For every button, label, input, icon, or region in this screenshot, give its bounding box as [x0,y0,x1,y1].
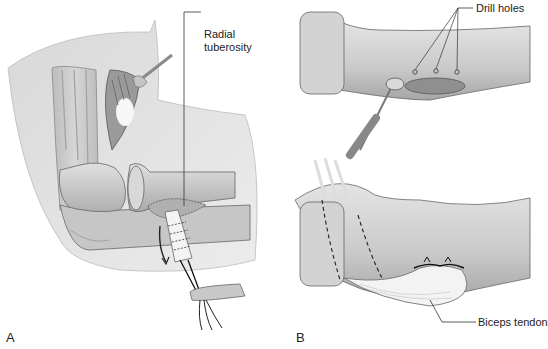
panel-a: Radial tuberosity A [0,0,280,349]
panel-b: Drill holes Biceps tendon B [280,0,546,349]
panel-letter-a: A [6,330,15,345]
biceps-tendon-label: Biceps tendon [478,316,548,329]
drill-holes-label: Drill holes [476,2,524,15]
radial-tuberosity-label: Radial tuberosity [204,28,252,54]
radius-drill-illustration [280,0,546,349]
label-line-1: Radial [204,28,252,41]
panel-letter-b: B [296,330,305,345]
label-line-2: tuberosity [204,41,252,54]
